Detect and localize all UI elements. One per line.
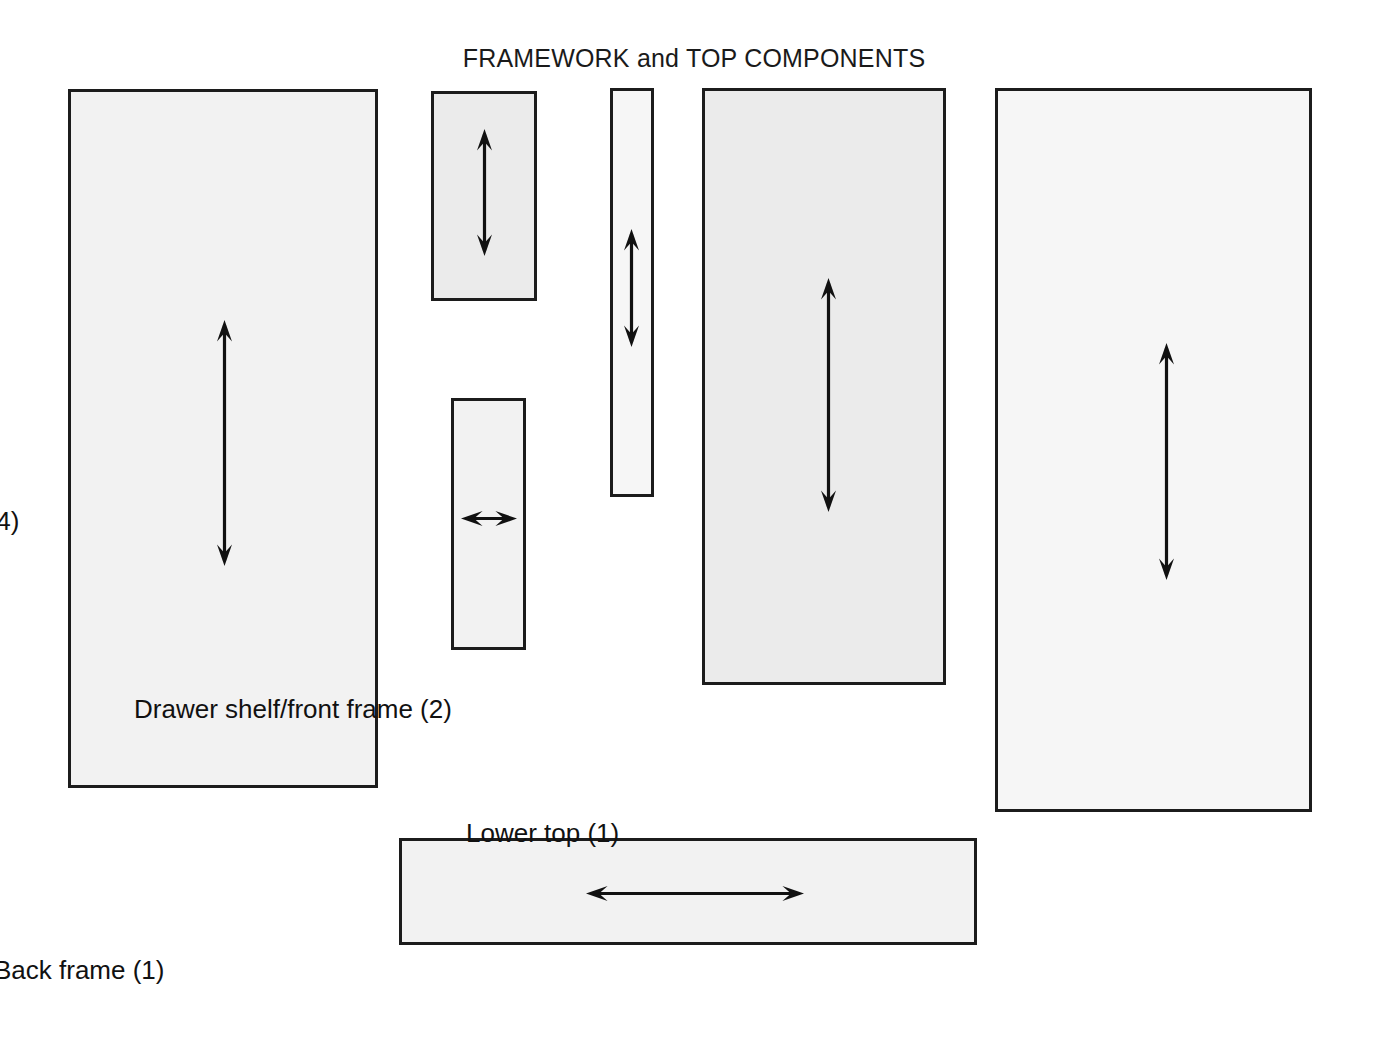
part-label-lower-top: Lower top (1) [466,818,619,849]
part-rectangle-drawer-shelf-front-frame [702,88,946,685]
part-label-back-frame: Back frame (1) [0,955,165,986]
part-drawer-shelf-front-frame [702,88,946,685]
part-rectangle-divider [451,398,526,650]
part-leg [610,88,654,497]
part-rectangle-leg [610,88,654,497]
part-label-leg: Leg (4) [0,506,19,537]
part-divider [451,398,526,650]
part-rectangle-lower-top [995,88,1312,812]
part-rectangle-side-frame [431,91,537,301]
part-lower-top [995,88,1312,812]
part-back-frame [399,838,977,945]
part-upper-top [68,89,378,788]
part-rectangle-back-frame [399,838,977,945]
part-rectangle-upper-top [68,89,378,788]
part-label-drawer-shelf-front-frame: Drawer shelf/front frame (2) [134,694,452,725]
diagram-title: FRAMEWORK and TOP COMPONENTS [0,44,1388,73]
part-side-frame [431,91,537,301]
diagram-page: FRAMEWORK and TOP COMPONENTS Upper top (… [0,0,1388,1037]
